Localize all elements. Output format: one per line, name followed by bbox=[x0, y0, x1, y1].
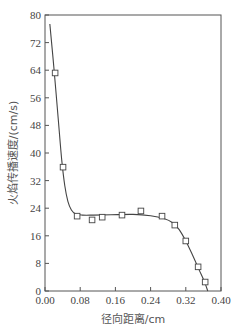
y-tick-label: 80 bbox=[30, 9, 42, 21]
x-axis-ticks: 0.000.080.160.240.320.40 bbox=[35, 287, 231, 306]
fit-curve bbox=[50, 24, 208, 291]
y-tick-label: 64 bbox=[30, 64, 42, 76]
square-marker bbox=[74, 213, 80, 219]
data-markers bbox=[52, 70, 208, 285]
square-marker bbox=[52, 70, 58, 76]
square-marker bbox=[119, 212, 125, 218]
y-axis-label: 火焰传播速度/(cm/s) bbox=[6, 101, 20, 206]
y-tick-label: 8 bbox=[36, 257, 42, 269]
y-axis-ticks: 08162432404856647280 bbox=[30, 9, 49, 297]
square-marker bbox=[195, 264, 201, 270]
square-marker bbox=[202, 279, 208, 285]
x-tick-label: 0.16 bbox=[106, 294, 126, 306]
y-tick-label: 48 bbox=[30, 119, 42, 131]
y-tick-label: 72 bbox=[30, 37, 41, 49]
x-tick-label: 0.32 bbox=[176, 294, 195, 306]
square-marker bbox=[89, 217, 95, 223]
x-tick-label: 0.24 bbox=[141, 294, 161, 306]
x-tick-label: 0.08 bbox=[71, 294, 91, 306]
x-tick-label: 0.40 bbox=[211, 294, 231, 306]
y-tick-label: 40 bbox=[30, 147, 42, 159]
x-tick-label: 0.00 bbox=[35, 294, 55, 306]
square-marker bbox=[183, 238, 189, 244]
y-tick-label: 16 bbox=[30, 230, 42, 242]
fit-curve-path bbox=[50, 24, 208, 291]
plot-border bbox=[45, 15, 221, 291]
x-axis-label: 径向距离/cm bbox=[101, 312, 165, 326]
square-marker bbox=[159, 213, 165, 219]
square-marker bbox=[99, 214, 105, 220]
chart: 08162432404856647280 0.000.080.160.240.3… bbox=[0, 0, 241, 332]
square-marker bbox=[60, 164, 66, 170]
square-marker bbox=[138, 208, 144, 214]
plot-frame bbox=[45, 15, 221, 291]
y-tick-label: 32 bbox=[30, 175, 41, 187]
y-tick-label: 24 bbox=[30, 202, 42, 214]
square-marker bbox=[172, 222, 178, 228]
y-tick-label: 56 bbox=[30, 92, 42, 104]
